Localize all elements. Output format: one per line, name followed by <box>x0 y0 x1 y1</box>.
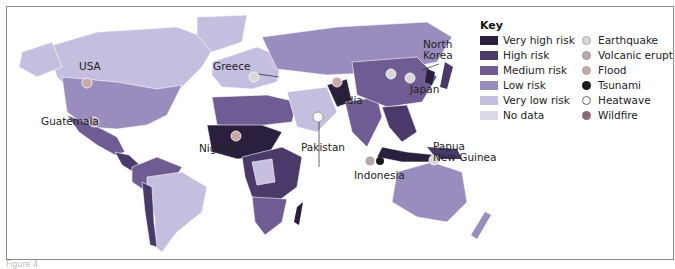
key-earthquake: Earthquake <box>582 34 658 47</box>
wildfire-dot-icon <box>582 111 591 120</box>
key-wildfire: Wildfire <box>582 109 638 122</box>
key-no-data: No data <box>480 109 544 122</box>
label-usa: USA <box>79 61 101 72</box>
earthquake-dot-icon <box>582 36 591 45</box>
volcano-dot-icon <box>582 51 591 60</box>
label-nigeria: Nigeria <box>199 143 237 154</box>
key-tsunami: Tsunami <box>582 79 641 92</box>
map-key: Key Very high risk High risk Medium risk… <box>472 13 673 133</box>
greece-earthquake-marker <box>249 72 259 82</box>
very-low-risk-swatch <box>480 96 498 105</box>
heatwave-dot-icon <box>582 96 591 105</box>
region-new-zealand <box>471 212 491 239</box>
tsunami-dot-icon <box>582 81 591 90</box>
label-png-line2: New Guinea <box>433 152 497 163</box>
region-southeast-asia <box>382 105 417 142</box>
india-flood-marker <box>332 77 342 87</box>
region-north-africa <box>212 95 297 127</box>
key-volcanic-eruption: Volcanic eruption <box>582 49 674 62</box>
key-flood: Flood <box>582 64 626 77</box>
key-low-risk: Low risk <box>480 79 546 92</box>
label-india: India <box>337 95 363 106</box>
key-high-risk: High risk <box>480 49 549 62</box>
key-medium-risk: Medium risk <box>480 64 567 77</box>
region-japan <box>440 62 453 89</box>
key-very-high-risk: Very high risk <box>480 34 575 47</box>
key-very-low-risk: Very low risk <box>480 94 570 107</box>
label-greece: Greece <box>213 61 250 72</box>
region-southern-africa <box>252 197 287 235</box>
key-title: Key <box>480 19 503 32</box>
no-data-swatch <box>480 111 498 120</box>
label-pakistan: Pakistan <box>301 142 345 153</box>
pakistan-heatwave-marker <box>313 112 323 122</box>
nigeria-flood-marker <box>231 131 241 141</box>
label-indonesia: Indonesia <box>354 170 405 181</box>
label-japan: Japan <box>410 84 439 95</box>
medium-risk-swatch <box>480 66 498 75</box>
figure-caption: Figure 4 <box>6 260 38 269</box>
japan-earthquake-marker <box>405 73 415 83</box>
region-indonesia <box>377 147 437 162</box>
indonesia-volcano-marker <box>365 156 375 166</box>
very-high-risk-swatch <box>480 36 498 45</box>
key-heatwave: Heatwave <box>582 94 651 107</box>
high-risk-swatch <box>480 51 498 60</box>
north-korea-earthquake-marker <box>386 69 396 79</box>
map-figure: USA Greece Guatemala Nigeria Pakistan In… <box>6 6 674 260</box>
label-guatemala: Guatemala <box>41 116 99 127</box>
indonesia-tsunami-marker <box>376 157 384 165</box>
usa-flood-marker <box>82 78 92 88</box>
label-north-korea-line2: Korea <box>423 50 453 61</box>
region-middle-east <box>287 87 337 132</box>
flood-dot-icon <box>582 66 591 75</box>
region-madagascar <box>294 202 303 225</box>
low-risk-swatch <box>480 81 498 90</box>
